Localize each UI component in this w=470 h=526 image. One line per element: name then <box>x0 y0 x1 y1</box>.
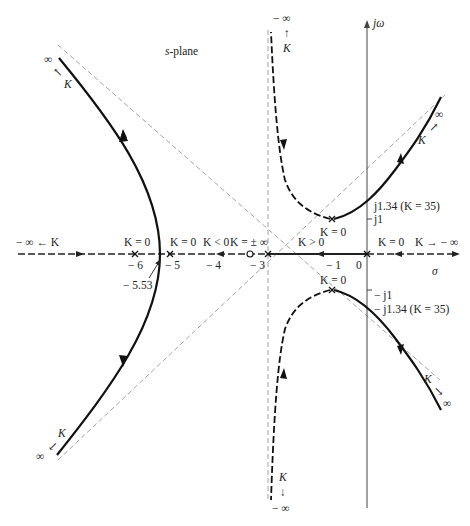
label-top-neg-inf: − ∞ <box>273 12 291 24</box>
label-k0-lower: K = 0 <box>320 274 347 286</box>
label-k0-upper: K = 0 <box>320 226 347 238</box>
asymptote-ll-ur <box>58 95 445 460</box>
label-ul-inf: ∞ <box>44 53 52 65</box>
label-ur-arrow: ↗ <box>429 121 439 133</box>
left-branch-arrow-up <box>119 130 128 142</box>
label-ll-arrow: ↙ <box>48 440 58 452</box>
label-neg-inf-left: − ∞ ← K <box>16 236 60 248</box>
tick-minus-4: − 4 <box>206 259 221 271</box>
label-bottom-arrow: ↓ <box>280 486 286 498</box>
lower-branch-dashed <box>271 290 330 500</box>
label-ll-inf: ∞ <box>36 450 44 462</box>
tick-minus-1: − 1 <box>326 259 341 271</box>
label-k-to-neg-inf: K → − ∞ <box>415 236 458 248</box>
label-k-pm-inf: K = ± ∞ <box>230 236 268 248</box>
root-locus-diagram: s-plane jω σ − 6 − 5 − 4 − 3 − 1 0 − 5.5… <box>0 0 470 526</box>
label-ur-inf: ∞ <box>435 108 443 120</box>
plane-title: s-plane <box>165 45 198 58</box>
tick-neg-j1: − j1 <box>374 289 393 302</box>
tick-minus-5: − 5 <box>165 259 180 271</box>
lower-dashed-arrow <box>280 368 287 379</box>
label-ll-K: K <box>57 427 67 439</box>
imag-axis <box>364 20 370 508</box>
label-k0-pole6: K = 0 <box>124 236 151 248</box>
left-branch-arrow-down <box>119 355 128 367</box>
label-ul-K: K <box>63 78 73 90</box>
label-ur-K: K <box>417 134 427 146</box>
label-k0-origin: K = 0 <box>378 236 405 248</box>
imag-axis-label: jω <box>371 17 384 30</box>
label-top-arrow: ↑ <box>284 27 290 39</box>
label-lr-K: K <box>423 373 433 385</box>
upper-dashed-arrow <box>280 139 287 150</box>
tick-minus-6: − 6 <box>128 259 143 271</box>
left-locus-branch <box>57 58 160 455</box>
label-lr-inf: ∞ <box>443 397 451 409</box>
label-top-K: K <box>282 42 292 54</box>
label-k0-pole5: K = 0 <box>170 236 197 248</box>
label-bottom-K: K <box>278 471 288 483</box>
tick-minus-3: − 3 <box>250 259 265 271</box>
label-bottom-neg-inf: − ∞ <box>272 502 290 514</box>
tick-j134: j1.34 (K = 35) <box>373 200 440 213</box>
real-axis-label: σ <box>432 265 439 277</box>
label-lr-arrow: ↘ <box>434 385 444 397</box>
label-ul-arrow: ↖ <box>53 66 63 78</box>
zero-marker <box>247 251 253 257</box>
tick-neg-j134: − j1.34 (K = 35) <box>374 303 449 316</box>
real-axis <box>18 251 460 257</box>
upper-branch-dashed <box>271 32 330 219</box>
tick-zero: 0 <box>356 259 362 271</box>
breakaway-label: − 5.53 <box>123 279 153 291</box>
tick-j1: j1 <box>373 213 383 226</box>
label-k-lt-0: K < 0 <box>203 236 230 248</box>
